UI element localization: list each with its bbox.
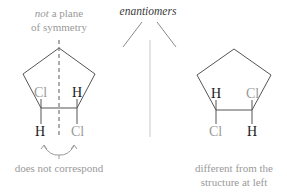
right-lower-right-atom: H bbox=[247, 125, 257, 139]
right-upper-right-atom: Cl bbox=[246, 87, 259, 101]
left-upper-left-atom: Cl bbox=[34, 86, 47, 100]
right-lower-left-atom: Cl bbox=[209, 125, 222, 139]
different-note-line1: different from the bbox=[180, 161, 287, 175]
symmetry-caption-line1: not a plane bbox=[18, 6, 100, 20]
symmetry-caption-line2: of symmetry bbox=[18, 20, 100, 34]
left-upper-right-atom: H bbox=[72, 86, 82, 100]
enantiomer-arrow-right bbox=[157, 22, 176, 47]
symmetry-caption: not a plane of symmetry bbox=[18, 6, 100, 34]
caption-emphasis: not bbox=[35, 7, 49, 19]
right-ring bbox=[197, 49, 271, 110]
correspondence-arrowhead-right bbox=[71, 145, 77, 149]
right-upper-left-atom: H bbox=[211, 87, 221, 101]
caption-rest: a plane bbox=[49, 7, 83, 19]
enantiomer-arrow-left bbox=[123, 22, 142, 47]
left-lower-right-atom: Cl bbox=[71, 125, 84, 139]
left-lower-left-atom: H bbox=[35, 125, 45, 139]
different-structure-note: different from the structure at left bbox=[180, 161, 287, 189]
correspondence-arrowhead-left bbox=[41, 145, 47, 149]
correspondence-arrow bbox=[44, 146, 74, 155]
does-not-correspond-note: does not correspond bbox=[8, 161, 110, 175]
different-note-line2: structure at left bbox=[180, 175, 287, 189]
enantiomers-label: enantiomers bbox=[118, 5, 178, 17]
